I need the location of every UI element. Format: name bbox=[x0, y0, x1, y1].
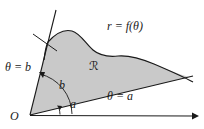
ray-theta-b-label: θ = b bbox=[5, 61, 31, 73]
ray-theta-a-label: θ = a bbox=[107, 90, 133, 102]
region-label: ℛ bbox=[89, 60, 99, 72]
polar-axis-arrowhead bbox=[192, 113, 199, 120]
angle-a-label: a bbox=[70, 98, 76, 110]
angle-b-label: b bbox=[59, 79, 65, 91]
polar-region-figure: r = f(θ) θ = b θ = a O b a ℛ bbox=[0, 0, 204, 129]
curve-label: r = f(θ) bbox=[107, 20, 143, 32]
origin-label: O bbox=[10, 110, 19, 122]
polar-axis bbox=[30, 116, 193, 117]
